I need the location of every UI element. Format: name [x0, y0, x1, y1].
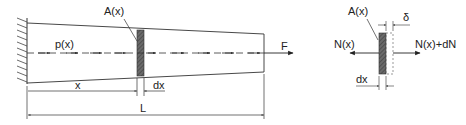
tapered-bar-diagram: A(x) p(x) F x dx L A(x) δ N(x) N(x)+dN d…: [0, 0, 466, 125]
left-force-label: N(x): [334, 38, 355, 50]
element-deformed-outline: [386, 33, 393, 74]
dim-dx-label: dx: [153, 79, 165, 91]
element-section: [379, 33, 386, 74]
delta-label: δ: [403, 11, 409, 23]
dim-L-label: L: [140, 102, 146, 114]
section-label: A(x): [104, 5, 124, 17]
fixed-wall: [17, 18, 27, 84]
force-label: F: [281, 40, 288, 52]
section-leader-line: [124, 19, 137, 41]
element-section-label: A(x): [348, 5, 368, 17]
right-force-label: N(x)+dN: [415, 38, 456, 50]
dim-x-label: x: [75, 79, 81, 91]
load-label: p(x): [55, 38, 74, 50]
element-dx-label: dx: [356, 73, 368, 85]
element-leader-line: [367, 19, 378, 40]
